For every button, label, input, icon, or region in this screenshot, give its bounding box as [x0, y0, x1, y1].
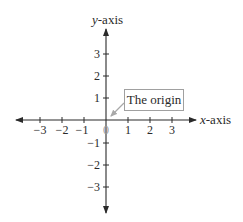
- y-tick-label: 2: [94, 69, 100, 83]
- x-tick-label: 3: [169, 123, 175, 137]
- y-axis-label: y-axis: [90, 12, 123, 27]
- origin-callout: The origin: [111, 90, 184, 117]
- y-tick-label: −3: [87, 180, 100, 194]
- x-tick-label: −3: [34, 123, 47, 137]
- callout-text: The origin: [127, 92, 182, 107]
- callout-arrow-icon: [111, 103, 124, 116]
- x-tick-label: −2: [56, 123, 69, 137]
- origin-label: 0: [103, 123, 109, 137]
- x-tick-label: 1: [125, 123, 131, 137]
- x-tick-label: 2: [147, 123, 153, 137]
- y-tick-label: −1: [87, 136, 100, 150]
- x-axis-label: x-axis: [199, 112, 231, 127]
- y-tick-label: −2: [87, 158, 100, 172]
- y-tick-label: 1: [94, 91, 100, 105]
- x-tick-label: −1: [76, 123, 89, 137]
- y-tick-label: 3: [94, 47, 100, 61]
- coordinate-plane: −3 −2 −1 1 2 3 0 3 2 1 −1 −2 −3 y-axis x…: [0, 0, 243, 222]
